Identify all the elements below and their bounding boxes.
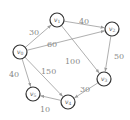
edge-v4-v5 (40, 96, 61, 101)
node-v4: v4 (61, 95, 75, 109)
edge-v2-v3 (105, 36, 111, 72)
edge-weight-v1-v3: 100 (65, 57, 80, 66)
edge-weight-v4-v5: 10 (40, 105, 50, 114)
node-v5: v5 (26, 87, 40, 101)
edge-weight-v0-v1: 30 (29, 28, 39, 37)
graph-diagram: 30604015040100503010 v0v1v2v3v4v5 (0, 0, 130, 120)
edge-weight-v3-v4: 30 (80, 85, 90, 94)
edge-weight-v0-v4: 150 (41, 67, 56, 76)
edge-weight-v0-v5: 40 (9, 70, 19, 79)
edge-weight-v2-v3: 50 (114, 52, 124, 61)
node-v3: v3 (97, 72, 111, 86)
edge-v0-v5 (22, 59, 31, 87)
edge-weight-v1-v2: 40 (79, 17, 89, 26)
node-v0: v0 (13, 45, 27, 59)
node-v1: v1 (50, 13, 64, 27)
edge-weight-v0-v2: 60 (47, 40, 57, 49)
node-v2: v2 (105, 22, 119, 36)
